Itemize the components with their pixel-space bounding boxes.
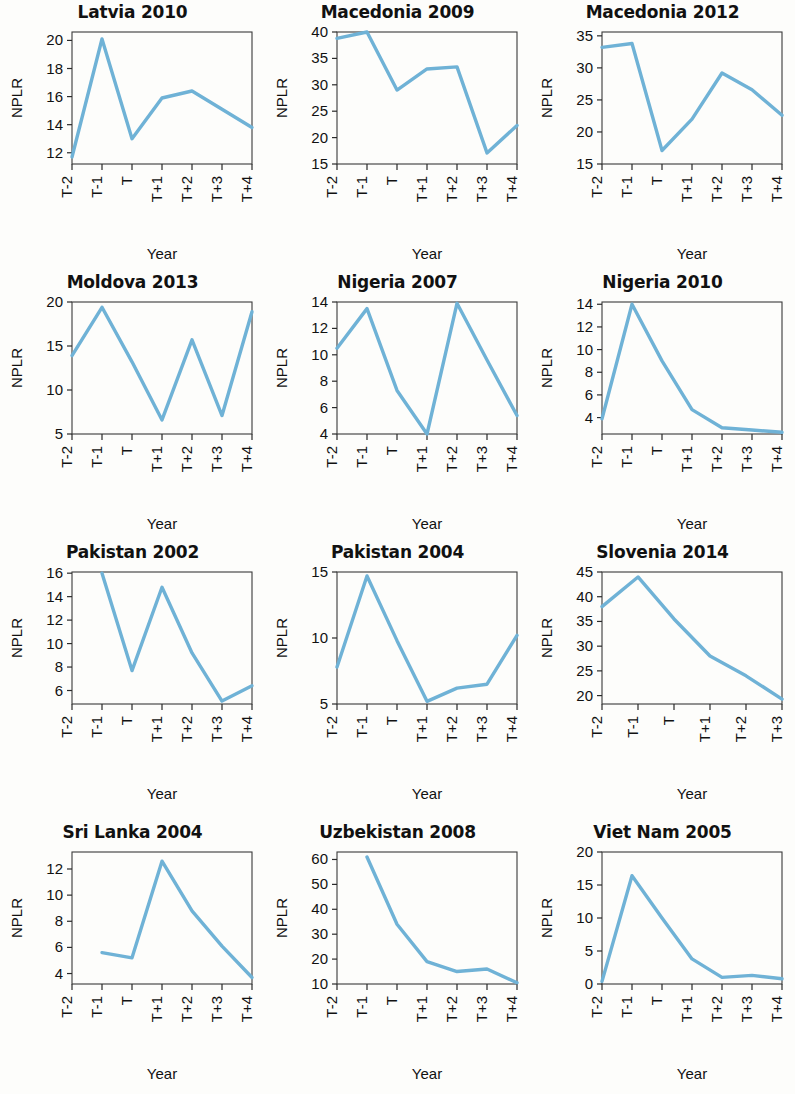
y-tick-label: 10 bbox=[576, 341, 593, 358]
x-tick-label: T+3 bbox=[208, 446, 225, 472]
x-axis-label: Year bbox=[147, 785, 177, 802]
x-tick-label: T+1 bbox=[413, 716, 430, 742]
x-tick-label: T+1 bbox=[148, 176, 165, 202]
data-series-line bbox=[602, 44, 782, 151]
y-tick-label: 40 bbox=[311, 24, 328, 40]
y-tick-label: 50 bbox=[311, 875, 328, 892]
plot-area: 51015T-2T-1TT+1T+2T+3T+4NPLRYear bbox=[265, 564, 530, 814]
x-tick-label: T+3 bbox=[473, 176, 490, 202]
x-tick-label: T-2 bbox=[588, 716, 605, 738]
y-tick-label: 10 bbox=[46, 635, 63, 652]
x-tick-label: T-2 bbox=[58, 716, 75, 738]
x-axis-label: Year bbox=[412, 1065, 442, 1082]
y-tick-label: 5 bbox=[320, 695, 328, 712]
y-tick-label: 12 bbox=[46, 860, 63, 877]
x-axis-label: Year bbox=[412, 785, 442, 802]
plot-area: 152025303540T-2T-1TT+1T+2T+3T+4NPLRYear bbox=[265, 24, 530, 274]
y-tick-label: 5 bbox=[585, 942, 593, 959]
x-axis-label: Year bbox=[412, 245, 442, 262]
chart-panel: Nigeria 2007468101214T-2T-1TT+1T+2T+3T+4… bbox=[265, 270, 530, 540]
y-axis-label: NPLR bbox=[8, 348, 25, 388]
y-tick-label: 12 bbox=[311, 319, 328, 336]
chart-grid: Latvia 20101214161820T-2T-1TT+1T+2T+3T+4… bbox=[0, 0, 795, 1094]
x-tick-label: T+2 bbox=[732, 716, 749, 742]
y-tick-label: 0 bbox=[585, 975, 593, 992]
y-tick-label: 20 bbox=[576, 844, 593, 860]
x-tick-label: T+1 bbox=[678, 996, 695, 1022]
x-tick-label: T bbox=[383, 716, 400, 725]
y-tick-label: 6 bbox=[585, 386, 593, 403]
y-tick-label: 10 bbox=[46, 381, 63, 398]
data-series-line bbox=[102, 573, 252, 701]
y-tick-label: 4 bbox=[585, 409, 593, 426]
data-series-line bbox=[102, 861, 252, 977]
x-tick-label: T bbox=[648, 446, 665, 455]
chart-panel: Nigeria 2010468101214T-2T-1TT+1T+2T+3T+4… bbox=[530, 270, 795, 540]
y-tick-label: 20 bbox=[46, 294, 63, 310]
y-tick-label: 4 bbox=[55, 965, 63, 982]
x-tick-label: T+1 bbox=[148, 446, 165, 472]
data-series-line bbox=[602, 876, 782, 982]
x-tick-label: T-1 bbox=[618, 996, 635, 1018]
x-tick-label: T-1 bbox=[88, 996, 105, 1018]
x-tick-label: T-1 bbox=[624, 716, 641, 738]
y-tick-label: 30 bbox=[576, 637, 593, 654]
x-tick-label: T+3 bbox=[473, 716, 490, 742]
x-axis-label: Year bbox=[412, 515, 442, 532]
x-axis-label: Year bbox=[677, 1065, 707, 1082]
data-series-line bbox=[72, 307, 252, 420]
x-axis-label: Year bbox=[147, 515, 177, 532]
chart-title: Uzbekistan 2008 bbox=[265, 822, 530, 842]
x-tick-label: T bbox=[383, 446, 400, 455]
x-tick-label: T+4 bbox=[503, 996, 520, 1022]
x-tick-label: T+1 bbox=[678, 176, 695, 202]
y-tick-label: 8 bbox=[55, 658, 63, 675]
y-axis-label: NPLR bbox=[8, 898, 25, 938]
y-tick-label: 40 bbox=[311, 900, 328, 917]
y-tick-label: 10 bbox=[311, 346, 328, 363]
data-series-line bbox=[367, 857, 517, 983]
plot-area: 102030405060T-2T-1TT+1T+2T+3T+4NPLRYear bbox=[265, 844, 530, 1094]
plot-area: 468101214T-2T-1TT+1T+2T+3T+4NPLRYear bbox=[265, 294, 530, 544]
chart-title: Sri Lanka 2004 bbox=[0, 822, 265, 842]
x-tick-label: T-2 bbox=[323, 446, 340, 468]
x-tick-label: T bbox=[648, 996, 665, 1005]
y-tick-label: 35 bbox=[576, 27, 593, 44]
x-tick-label: T+4 bbox=[503, 446, 520, 472]
x-tick-label: T+2 bbox=[178, 176, 195, 202]
data-series-line bbox=[337, 303, 517, 434]
x-tick-label: T+1 bbox=[696, 716, 713, 742]
plot-area: 1520253035T-2T-1TT+1T+2T+3T+4NPLRYear bbox=[530, 24, 795, 274]
x-tick-label: T-2 bbox=[323, 996, 340, 1018]
x-tick-label: T-1 bbox=[353, 996, 370, 1018]
x-tick-label: T bbox=[118, 446, 135, 455]
data-series-line bbox=[72, 39, 252, 157]
x-tick-label: T+1 bbox=[413, 446, 430, 472]
y-tick-label: 25 bbox=[576, 91, 593, 108]
x-tick-label: T-2 bbox=[58, 176, 75, 198]
y-tick-label: 25 bbox=[311, 102, 328, 119]
x-tick-label: T+4 bbox=[238, 716, 255, 742]
x-tick-label: T bbox=[118, 996, 135, 1005]
y-axis-label: NPLR bbox=[273, 898, 290, 938]
x-tick-label: T+3 bbox=[768, 716, 785, 742]
chart-title: Pakistan 2002 bbox=[0, 542, 265, 562]
y-tick-label: 15 bbox=[311, 155, 328, 172]
y-tick-label: 35 bbox=[311, 49, 328, 66]
y-tick-label: 8 bbox=[320, 372, 328, 389]
x-tick-label: T+3 bbox=[208, 176, 225, 202]
x-tick-label: T+3 bbox=[738, 996, 755, 1022]
data-series-line bbox=[602, 304, 782, 432]
y-tick-label: 35 bbox=[576, 612, 593, 629]
y-tick-label: 40 bbox=[576, 588, 593, 605]
y-tick-label: 6 bbox=[55, 682, 63, 699]
plot-area: 4681012T-2T-1TT+1T+2T+3T+4NPLRYear bbox=[0, 844, 265, 1094]
y-axis-label: NPLR bbox=[538, 618, 555, 658]
y-tick-label: 60 bbox=[311, 850, 328, 867]
x-axis-label: Year bbox=[147, 245, 177, 262]
x-tick-label: T+2 bbox=[443, 446, 460, 472]
x-tick-label: T+2 bbox=[443, 716, 460, 742]
x-tick-label: T+4 bbox=[503, 716, 520, 742]
x-tick-label: T-2 bbox=[588, 996, 605, 1018]
x-tick-label: T-2 bbox=[323, 716, 340, 738]
